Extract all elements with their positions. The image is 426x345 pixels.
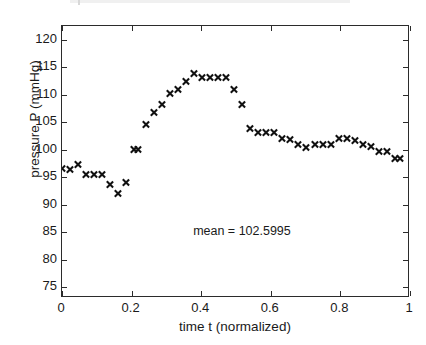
y-tick-label: 95 (43, 169, 57, 182)
data-point-marker (318, 140, 327, 149)
y-tick-label: 120 (35, 32, 57, 45)
x-tick-mark-top (271, 26, 272, 31)
data-point-marker (166, 89, 175, 98)
data-point-marker (254, 128, 263, 137)
data-point-marker (182, 77, 191, 86)
data-point-marker (62, 164, 67, 173)
data-point-marker (390, 154, 399, 163)
data-point-marker (342, 134, 351, 143)
x-tick-mark (340, 291, 341, 296)
data-point-marker (82, 170, 91, 179)
data-point-marker (190, 69, 199, 78)
y-tick-mark-right (403, 232, 408, 233)
pressure-scatter-figure: pressure P (mmHg) time t (normalized) me… (0, 0, 426, 345)
data-point-marker (230, 85, 239, 94)
data-point-marker (114, 189, 123, 198)
y-tick-mark-right (403, 40, 408, 41)
x-tick-mark-top (340, 26, 341, 31)
data-point-marker (158, 100, 167, 109)
x-tick-mark-top (410, 26, 411, 31)
y-tick-mark (62, 95, 67, 96)
x-tick-label: 0.6 (261, 301, 279, 314)
y-tick-label: 80 (43, 252, 57, 265)
y-tick-mark (62, 67, 67, 68)
y-tick-mark-right (403, 122, 408, 123)
x-tick-mark-top (201, 26, 202, 31)
data-point-marker (262, 128, 271, 137)
data-point-marker (286, 135, 295, 144)
y-tick-mark (62, 122, 67, 123)
y-tick-mark-right (403, 287, 408, 288)
data-point-marker (206, 73, 215, 82)
y-tick-label: 105 (35, 114, 57, 127)
y-tick-label: 85 (43, 224, 57, 237)
y-tick-mark (62, 150, 67, 151)
data-point-marker (270, 128, 279, 137)
data-point-marker (134, 145, 143, 154)
data-point-marker (222, 73, 231, 82)
mean-annotation: mean = 102.5995 (193, 225, 291, 238)
data-point-marker (130, 145, 139, 154)
data-point-marker (396, 154, 405, 163)
x-tick-mark-top (62, 26, 63, 31)
data-point-marker (66, 165, 75, 174)
y-tick-label: 115 (36, 59, 57, 72)
x-tick-label: 0.2 (122, 301, 140, 314)
data-point-marker (142, 120, 151, 129)
y-tick-mark (62, 287, 67, 288)
y-tick-mark-right (403, 205, 408, 206)
data-point-marker (198, 73, 207, 82)
data-point-marker (358, 140, 367, 149)
data-point-marker (98, 170, 107, 179)
data-point-marker (238, 100, 247, 109)
data-point-marker (214, 73, 223, 82)
x-tick-label: 0.4 (191, 301, 209, 314)
data-point-marker (334, 134, 343, 143)
x-tick-label: 0.8 (330, 301, 348, 314)
x-tick-mark (410, 291, 411, 296)
y-tick-mark-right (403, 177, 408, 178)
plot-area (62, 26, 408, 296)
y-tick-mark (62, 205, 67, 206)
x-tick-label: 0 (57, 301, 64, 314)
data-point-marker (374, 147, 383, 156)
x-tick-mark (201, 291, 202, 296)
data-point-marker (294, 140, 303, 149)
y-tick-label: 75 (43, 279, 57, 292)
data-point-marker (74, 160, 83, 169)
x-tick-mark (271, 291, 272, 296)
y-tick-label: 100 (35, 142, 57, 155)
data-point-marker (382, 147, 391, 156)
y-tick-mark (62, 177, 67, 178)
data-point-marker (106, 180, 115, 189)
plot-box (61, 25, 409, 297)
y-tick-mark-right (403, 67, 408, 68)
x-tick-mark-top (132, 26, 133, 31)
data-point-marker (310, 140, 319, 149)
y-tick-mark (62, 260, 67, 261)
y-tick-mark-right (403, 95, 408, 96)
x-tick-label: 1 (405, 301, 412, 314)
data-point-marker (122, 178, 131, 187)
data-point-marker (246, 124, 255, 133)
data-point-marker (302, 143, 311, 152)
x-axis-label: time t (normalized) (61, 320, 409, 334)
y-tick-mark (62, 40, 67, 41)
data-point-marker (278, 134, 287, 143)
x-tick-mark (132, 291, 133, 296)
y-tick-mark-right (403, 150, 408, 151)
data-point-marker (90, 170, 99, 179)
data-point-marker (326, 140, 335, 149)
data-point-marker (366, 142, 375, 151)
y-tick-label: 90 (43, 197, 57, 210)
data-point-marker (174, 85, 183, 94)
y-tick-mark (62, 232, 67, 233)
data-point-marker (350, 136, 359, 145)
y-tick-mark-right (403, 260, 408, 261)
x-tick-mark (62, 291, 63, 296)
y-tick-label: 110 (36, 87, 57, 100)
data-point-marker (150, 108, 159, 117)
